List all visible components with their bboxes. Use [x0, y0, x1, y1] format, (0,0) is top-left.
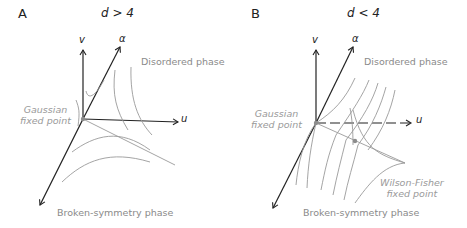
u-axis-label: u [181, 113, 187, 124]
alpha-axis [316, 47, 353, 123]
gaussian-fixed-point-label: Gaussian fixed point [251, 108, 302, 130]
panel-b: B d < 4 v α u Disordered phase Broken-sy… [233, 0, 467, 228]
alpha-axis-neg [40, 119, 83, 205]
u-axis-label: u [416, 114, 422, 125]
v-axis-label: v [312, 34, 318, 45]
u-axis [83, 119, 178, 122]
gaussian-fixed-point-marker [81, 117, 85, 121]
gaussian-fixed-point-marker [314, 121, 318, 125]
gaussian-fixed-point-label: Gaussian fixed point [20, 104, 71, 126]
wilson-fisher-fixed-point-marker [353, 139, 357, 143]
wilson-fisher-fixed-point-label: Wilson-Fisher fixed point [380, 177, 444, 199]
alpha-axis-label: α [352, 33, 359, 44]
broken-symmetry-phase-label: Broken-symmetry phase [303, 207, 419, 218]
alpha-axis-neg [273, 123, 316, 208]
rg-flow-lines [62, 67, 175, 182]
disordered-phase-label: Disordered phase [364, 56, 448, 67]
panel-label: B [251, 6, 260, 21]
disordered-phase-label: Disordered phase [141, 56, 225, 67]
panel-a: A d > 4 v α u Disordered phase Broken-sy… [0, 0, 233, 228]
dimension-condition: d < 4 [347, 6, 380, 20]
v-axis-label: v [79, 34, 85, 45]
broken-symmetry-phase-label: Broken-symmetry phase [57, 207, 173, 218]
panel-label: A [18, 6, 27, 21]
dimension-condition: d > 4 [101, 6, 134, 20]
alpha-axis-label: α [119, 33, 126, 44]
